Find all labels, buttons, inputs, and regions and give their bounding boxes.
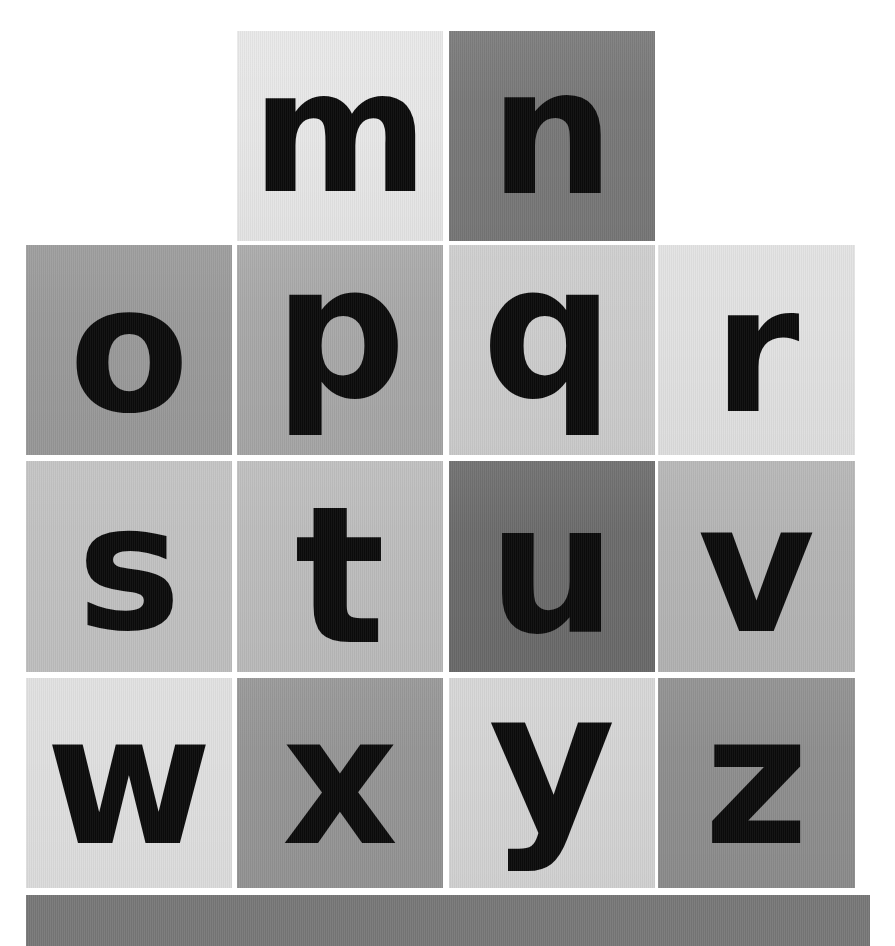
letter-tile-u[interactable]: u — [449, 461, 655, 672]
letter-tile-w[interactable]: w — [26, 678, 232, 888]
bottom-strip — [26, 895, 870, 946]
letter-glyph-r: r — [713, 263, 799, 438]
letter-tile-n[interactable]: n — [449, 31, 655, 241]
letter-tile-t[interactable]: t — [237, 461, 443, 672]
letter-glyph-y: y — [488, 678, 615, 859]
letter-tile-p[interactable]: p — [237, 245, 443, 455]
letter-glyph-u: u — [488, 479, 616, 659]
letter-tile-s[interactable]: s — [26, 461, 232, 672]
letter-glyph-o: o — [69, 263, 189, 438]
letter-glyph-n: n — [490, 45, 615, 220]
letter-glyph-p: p — [274, 245, 406, 425]
letter-glyph-z: z — [704, 691, 809, 871]
letter-glyph-w: w — [46, 691, 212, 871]
letter-glyph-m: m — [251, 47, 428, 217]
letter-tile-r[interactable]: r — [658, 245, 855, 455]
letter-tile-x[interactable]: x — [237, 678, 443, 888]
letter-glyph-v: v — [698, 479, 815, 659]
letter-glyph-t: t — [295, 482, 386, 672]
letter-tile-m[interactable]: m — [237, 31, 443, 241]
letter-tile-q[interactable]: q — [449, 245, 655, 455]
letter-glyph-s: s — [77, 481, 181, 656]
letter-glyph-q: q — [482, 245, 614, 425]
letter-tile-o[interactable]: o — [26, 245, 232, 455]
alphabet-tile-board: mnopqrstuvwxyz — [0, 0, 895, 946]
letter-glyph-x: x — [282, 691, 398, 871]
letter-tile-v[interactable]: v — [658, 461, 855, 672]
letter-tile-y[interactable]: y — [449, 678, 655, 888]
letter-tile-z[interactable]: z — [658, 678, 855, 888]
